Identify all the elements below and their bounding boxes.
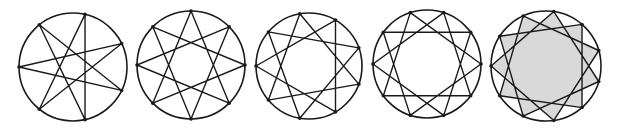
- vertex-dot: [227, 101, 231, 105]
- vertex-dot: [334, 18, 338, 22]
- circumscribed-circle: [19, 13, 127, 121]
- vertex-dot: [135, 63, 139, 67]
- vertex-dot: [521, 14, 525, 18]
- vertex-dot: [597, 80, 601, 84]
- vertex-dot: [83, 118, 87, 122]
- vertex-dot: [442, 114, 446, 118]
- vertex-dot: [409, 11, 413, 15]
- vertex-dot: [469, 94, 473, 98]
- vertex-dot: [151, 101, 155, 105]
- vertex-dot: [334, 110, 338, 114]
- vertex-dot: [442, 11, 446, 15]
- vertex-dot: [120, 89, 124, 93]
- vertex-dot: [120, 42, 124, 46]
- vertex-dot: [580, 106, 584, 110]
- vertex-dot: [243, 63, 247, 67]
- vertex-dot: [267, 30, 271, 34]
- vertex-dot: [469, 30, 473, 34]
- star-polygon-11-3: [489, 10, 601, 122]
- vertex-dot: [151, 25, 155, 29]
- vertex-dot: [227, 25, 231, 29]
- vertex-dot: [189, 9, 193, 13]
- circumscribed-circle: [256, 13, 362, 119]
- vertex-dot: [254, 64, 258, 68]
- star-polygons-canvas: [0, 0, 623, 134]
- star-polygon-7-3: [17, 13, 127, 122]
- star-polygon-10-3: [371, 10, 483, 118]
- star-polygon-8-3: [135, 9, 247, 121]
- vertex-dot: [580, 23, 584, 27]
- vertex-dot: [479, 62, 483, 66]
- star-polygon-diagram: [0, 0, 623, 134]
- vertex-dot: [521, 114, 525, 118]
- vertex-dot: [552, 119, 556, 123]
- circumscribed-circle: [373, 10, 481, 118]
- vertex-dot: [17, 65, 21, 69]
- vertex-dot: [267, 98, 271, 102]
- star-polygon-9-3: [254, 12, 362, 120]
- star-lines: [373, 13, 481, 116]
- vertex-dot: [298, 12, 302, 16]
- vertex-dot: [597, 49, 601, 53]
- vertex-dot: [298, 116, 302, 120]
- vertex-dot: [382, 30, 386, 34]
- vertex-dot: [357, 82, 361, 86]
- vertex-dot: [371, 62, 375, 66]
- vertex-dot: [498, 94, 502, 98]
- vertex-dot: [38, 23, 42, 27]
- vertex-dot: [382, 94, 386, 98]
- vertex-dot: [498, 34, 502, 38]
- vertex-dot: [552, 10, 556, 14]
- vertex-dot: [38, 107, 42, 111]
- vertex-dot: [489, 64, 493, 68]
- vertex-dot: [83, 13, 87, 17]
- vertex-dot: [357, 46, 361, 50]
- vertex-dot: [189, 117, 193, 121]
- vertex-dot: [409, 114, 413, 118]
